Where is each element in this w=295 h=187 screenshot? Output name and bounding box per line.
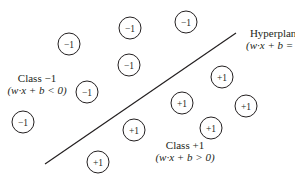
class-neg-equation: (w·x + b < 0): [0, 84, 74, 96]
class-pos-equation: (w·x + b > 0): [150, 151, 220, 163]
point-negative: −1: [76, 81, 98, 103]
point-label: +1: [129, 126, 139, 136]
point-positive: +1: [235, 95, 257, 117]
point-label: −1: [82, 88, 92, 98]
point-positive: +1: [171, 92, 193, 114]
point-label: +1: [177, 99, 187, 109]
point-label: −1: [124, 61, 134, 71]
point-negative: −1: [118, 54, 140, 76]
point-positive: +1: [87, 151, 109, 173]
class-neg-title: Class −1: [0, 72, 74, 84]
point-positive: +1: [200, 117, 222, 139]
hyperplane-equation: (w·x + b = 0): [246, 39, 295, 51]
class-neg-label: Class −1 (w·x + b < 0): [0, 72, 74, 96]
point-negative: −1: [119, 17, 141, 39]
point-label: −1: [18, 118, 28, 128]
point-label: +1: [206, 124, 216, 134]
hyperplane-title: Hyperplane: [246, 27, 295, 39]
class-pos-label: Class +1 (w·x + b > 0): [150, 139, 220, 163]
point-label: −1: [64, 40, 74, 50]
point-negative: −1: [58, 33, 80, 55]
hyperplane-label: Hyperplane (w·x + b = 0): [246, 27, 295, 51]
point-negative: −1: [12, 111, 34, 133]
point-negative: −1: [175, 11, 197, 33]
point-label: −1: [125, 24, 135, 34]
class-pos-title: Class +1: [150, 139, 220, 151]
point-positive: +1: [211, 66, 233, 88]
point-positive: +1: [123, 119, 145, 141]
point-label: +1: [93, 158, 103, 168]
point-label: +1: [217, 73, 227, 83]
point-label: +1: [241, 102, 251, 112]
point-label: −1: [181, 18, 191, 28]
